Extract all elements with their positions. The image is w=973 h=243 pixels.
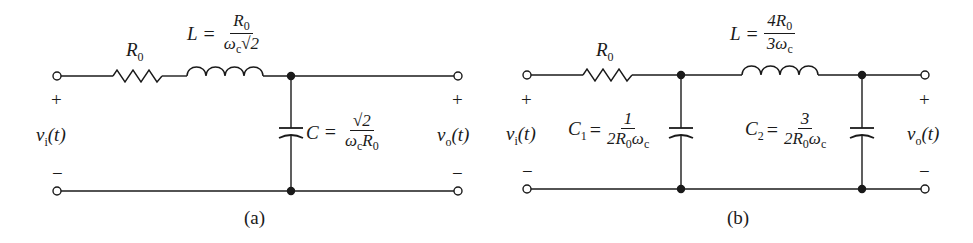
inductor-label-a: L = R0 ωc√2 [187, 12, 262, 56]
input-voltage-b: vi(t) [506, 124, 536, 147]
inductor-value-fraction: 4R0 3ωc [764, 12, 796, 56]
junction-dot [678, 186, 685, 193]
output-voltage-b: vo(t) [907, 124, 939, 147]
junction-dot [859, 186, 866, 193]
caption-a: (a) [244, 208, 265, 227]
capacitor-label-a: C = √2 ωcR0 [306, 112, 382, 152]
output-minus-a: − [452, 164, 463, 183]
input-plus-b: + [521, 90, 532, 109]
input-terminal-bottom [523, 185, 531, 193]
c1-value-fraction: 1 2R0ωc [604, 110, 652, 150]
output-plus-b: + [919, 90, 930, 109]
c2-value-fraction: 3 2R0ωc [781, 110, 829, 150]
circuit-a-wiring [53, 67, 462, 195]
junction-dot [288, 188, 295, 195]
output-terminal-bottom [921, 185, 929, 193]
input-voltage-a: vi(t) [36, 125, 66, 148]
junction-dot [678, 72, 685, 79]
resistor-label-a: R0 [126, 40, 144, 63]
resistor-r0-b [583, 69, 632, 81]
input-minus-a: − [52, 164, 63, 183]
caption-b: (b) [727, 208, 749, 227]
output-minus-b: − [919, 162, 930, 181]
input-terminal-top [523, 71, 531, 79]
output-terminal-bottom [454, 187, 462, 195]
junction-dot [859, 72, 866, 79]
input-terminal-bottom [53, 187, 61, 195]
output-terminal-top [454, 72, 462, 80]
inductor-value-fraction: R0 ωc√2 [221, 12, 262, 56]
input-plus-a: + [51, 90, 62, 109]
capacitor-c1-label: C1 = 1 2R0ωc [568, 110, 652, 150]
junction-dot [288, 73, 295, 80]
input-terminal-top [53, 72, 61, 80]
inductor-l-b [742, 66, 818, 75]
inductor-label-b: L = 4R0 3ωc [730, 12, 796, 56]
output-terminal-top [921, 71, 929, 79]
capacitor-c2-label: C2 = 3 2R0ωc [745, 110, 829, 150]
resistor-label-b: R0 [596, 40, 614, 63]
output-voltage-a: vo(t) [437, 125, 469, 148]
input-minus-b: − [522, 162, 533, 181]
capacitor-value-fraction: √2 ωcR0 [342, 112, 382, 152]
inductor-l-a [187, 67, 263, 76]
output-plus-a: + [452, 90, 463, 109]
resistor-r0-a [113, 70, 162, 82]
